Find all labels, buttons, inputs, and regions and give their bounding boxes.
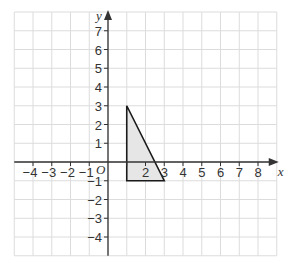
grid-lines (14, 12, 277, 256)
y-tick-label: 4 (95, 80, 102, 95)
y-tick-label: 5 (95, 61, 102, 76)
y-tick-label: −3 (87, 211, 102, 226)
x-tick-label: −3 (41, 165, 56, 180)
x-tick-label: 2 (142, 165, 149, 180)
coordinate-grid: −4−3−2−123456787654321−1−2−3−4Oxy (0, 0, 286, 268)
x-tick-label: 3 (161, 165, 168, 180)
x-tick-label: 6 (217, 165, 224, 180)
x-tick-label: 5 (198, 165, 205, 180)
x-tick-label: 7 (236, 165, 243, 180)
origin-label: O (96, 162, 106, 177)
y-tick-label: −4 (87, 230, 102, 245)
x-tick-label: −2 (60, 165, 75, 180)
x-tick-label: 4 (179, 165, 186, 180)
y-tick-label: 6 (95, 43, 102, 58)
x-axis-label: x (277, 164, 284, 179)
y-tick-label: 1 (95, 136, 102, 151)
y-tick-label: 2 (95, 118, 102, 133)
y-tick-label: 7 (95, 24, 102, 39)
tick-labels: −4−3−2−123456787654321−1−2−3−4Oxy (23, 8, 284, 245)
x-tick-label: 8 (254, 165, 261, 180)
x-tick-label: −4 (23, 165, 38, 180)
y-tick-label: −2 (87, 193, 102, 208)
y-tick-label: 3 (95, 99, 102, 114)
y-axis-label: y (94, 8, 102, 23)
